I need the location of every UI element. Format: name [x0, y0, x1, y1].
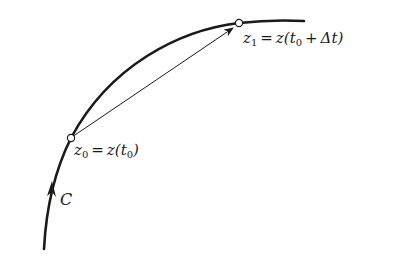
chord-vector	[72, 28, 233, 137]
z1-eq: =	[257, 29, 276, 47]
z1-rhs-func: z(	[276, 29, 290, 47]
z0-rhs-func: z(	[107, 141, 121, 159]
z0-close: )	[133, 141, 139, 159]
z0-var: z	[74, 141, 82, 159]
curve-name: C	[60, 190, 72, 209]
label-z1: z1=z(t0+Δt)	[243, 31, 343, 48]
z1-delta: Δt	[321, 29, 338, 47]
z1-var: z	[243, 29, 251, 47]
z0-eq: =	[88, 141, 107, 159]
z1-close: )	[337, 29, 343, 47]
point-z1-marker	[235, 19, 242, 26]
label-z0: z0=z(t0)	[74, 143, 139, 160]
z1-plus: +	[302, 29, 321, 47]
label-curve-c: C	[60, 192, 72, 208]
curve-c	[44, 20, 304, 249]
